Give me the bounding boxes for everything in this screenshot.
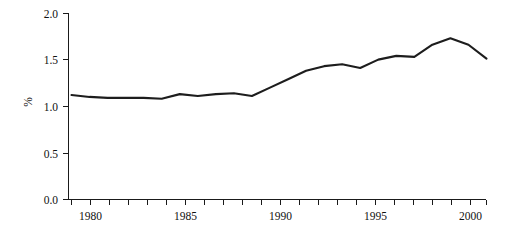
line-chart: 2.0 1.5 1.0 0.5 0.0 % [0, 0, 508, 242]
x-axis-ticks [72, 200, 487, 206]
x-tick-label-2000: 2000 [459, 210, 482, 222]
x-tick-label-1995: 1995 [364, 210, 387, 222]
y-tick-label-0-5: 0.5 [44, 148, 59, 160]
chart-page: 2.0 1.5 1.0 0.5 0.0 % [0, 0, 508, 242]
y-tick-label-0-0: 0.0 [44, 194, 59, 206]
y-tick-label-2-0: 2.0 [44, 8, 59, 20]
y-axis-title: % [22, 97, 34, 107]
x-tick-label-1990: 1990 [269, 210, 292, 222]
x-tick-label-1985: 1985 [174, 210, 197, 222]
chart-svg: 2.0 1.5 1.0 0.5 0.0 % [0, 0, 508, 242]
x-tick-label-1980: 1980 [79, 210, 102, 222]
data-line-percent [72, 38, 487, 99]
y-axis-ticks [63, 14, 69, 200]
y-tick-label-1-5: 1.5 [44, 54, 59, 66]
y-tick-label-1-0: 1.0 [44, 101, 59, 113]
